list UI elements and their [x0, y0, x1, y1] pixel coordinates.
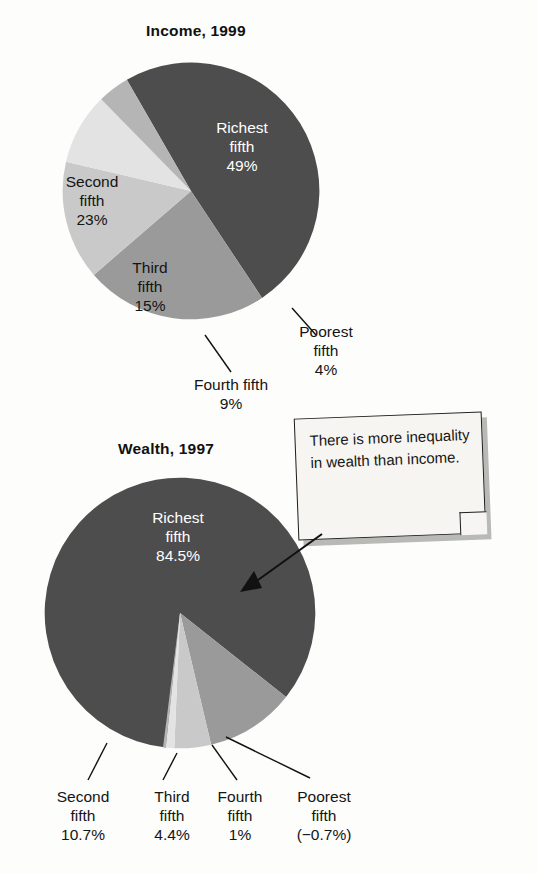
wealth-leader-fourth — [212, 745, 237, 780]
wealth-label-third: Third fifth 4.4% — [136, 787, 208, 844]
wealth-label-third-name: Third — [136, 787, 208, 806]
callout-note-fold-corner — [459, 511, 487, 535]
income-label-third-value: 15% — [104, 296, 196, 315]
wealth-label-second: Second fifth 10.7% — [34, 787, 132, 844]
income-label-third-name: Third — [104, 258, 196, 277]
wealth-label-poorest-value: (−0.7%) — [272, 825, 376, 844]
income-label-fourth-name: Fourth fifth — [166, 375, 296, 394]
income-label-fourth-value: 9% — [166, 394, 296, 413]
income-label-fourth: Fourth fifth 9% — [166, 375, 296, 413]
wealth-leader-third — [163, 753, 177, 780]
wealth-label-fourth-sub: fifth — [208, 806, 272, 825]
income-label-richest-value: 49% — [190, 156, 294, 175]
callout-arrow-icon — [236, 530, 324, 592]
callout-note-text: There is more inequality in wealth than … — [309, 424, 472, 474]
wealth-label-richest-name: Richest — [120, 508, 236, 527]
inequality-figure: Income, 1999 Richest fifth 49% Second fi… — [0, 0, 538, 874]
wealth-label-second-value: 10.7% — [34, 825, 132, 844]
wealth-label-second-sub: fifth — [34, 806, 132, 825]
wealth-label-second-name: Second — [34, 787, 132, 806]
wealth-label-third-value: 4.4% — [136, 825, 208, 844]
income-label-poorest-value: 4% — [278, 360, 374, 379]
income-chart-title: Income, 1999 — [146, 22, 246, 40]
income-label-poorest-name: Poorest — [278, 322, 374, 341]
wealth-label-richest: Richest fifth 84.5% — [120, 508, 236, 565]
income-label-richest-sub: fifth — [190, 137, 294, 156]
wealth-slice-second-shape[interactable] — [180, 613, 286, 745]
wealth-label-richest-sub: fifth — [120, 527, 236, 546]
wealth-chart-title: Wealth, 1997 — [118, 440, 214, 458]
income-label-poorest: Poorest fifth 4% — [278, 322, 374, 379]
wealth-label-third-sub: fifth — [136, 806, 208, 825]
wealth-label-fourth-value: 1% — [208, 825, 272, 844]
income-label-second-name: Second — [40, 172, 144, 191]
income-label-second-sub: fifth — [40, 191, 144, 210]
wealth-leader-poorest — [226, 737, 310, 778]
income-label-richest: Richest fifth 49% — [190, 118, 294, 175]
wealth-label-poorest: Poorest fifth (−0.7%) — [272, 787, 376, 844]
income-label-second: Second fifth 23% — [40, 172, 144, 229]
income-label-second-value: 23% — [40, 210, 144, 229]
callout-note: There is more inequality in wealth than … — [294, 411, 487, 540]
income-label-poorest-sub: fifth — [278, 341, 374, 360]
wealth-label-fourth-name: Fourth — [208, 787, 272, 806]
wealth-leader-second — [88, 743, 107, 780]
income-label-third-sub: fifth — [104, 277, 196, 296]
income-label-third: Third fifth 15% — [104, 258, 196, 315]
wealth-slice-third-shape[interactable] — [174, 613, 211, 748]
income-leader-fourth — [205, 335, 231, 372]
wealth-slice-fourth-shape[interactable] — [166, 613, 180, 748]
wealth-slice-poorest-shape[interactable] — [163, 613, 180, 748]
wealth-label-poorest-name: Poorest — [272, 787, 376, 806]
wealth-label-richest-value: 84.5% — [120, 546, 236, 565]
wealth-label-fourth: Fourth fifth 1% — [208, 787, 272, 844]
wealth-label-poorest-sub: fifth — [272, 806, 376, 825]
income-label-richest-name: Richest — [190, 118, 294, 137]
